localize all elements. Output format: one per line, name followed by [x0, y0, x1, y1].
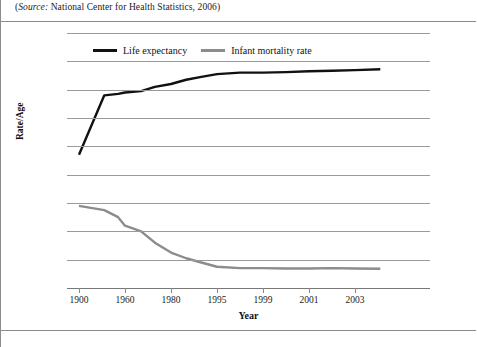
gridline	[67, 203, 430, 204]
gridline	[67, 175, 430, 176]
gridline	[67, 118, 430, 119]
gridline	[67, 260, 430, 261]
source-note: (Source: National Center for Health Stat…	[15, 2, 220, 12]
x-axis-tick-label: 2003	[325, 296, 385, 306]
x-axis: 1900196019801995199920012003 Year	[67, 288, 430, 338]
series-line	[79, 69, 380, 155]
x-axis-tick	[263, 288, 264, 293]
x-axis-title: Year	[67, 310, 430, 321]
legend-swatch	[201, 49, 225, 52]
source-note-label: Source:	[18, 2, 48, 12]
x-axis-tick	[171, 288, 172, 293]
x-axis-tick	[125, 288, 126, 293]
legend-swatch	[93, 49, 117, 52]
gridline	[67, 61, 430, 62]
chart-legend: Life expectancyInfant mortality rate	[93, 45, 312, 56]
divider-top	[1, 21, 477, 22]
source-note-text: National Center for Health Statistics, 2…	[48, 2, 220, 12]
legend-label: Infant mortality rate	[231, 45, 312, 56]
figure-container: (Source: National Center for Health Stat…	[0, 0, 477, 347]
x-axis-tick	[79, 288, 80, 293]
legend-label: Life expectancy	[123, 45, 187, 56]
x-axis-tick	[217, 288, 218, 293]
gridline	[67, 146, 430, 147]
gridline	[67, 33, 430, 34]
x-axis-tick	[355, 288, 356, 293]
chart-series-layer	[67, 33, 430, 288]
plot-area: 0102030405060708090	[67, 33, 430, 288]
y-axis-title: Rate/Age	[15, 103, 25, 140]
x-axis-tick	[309, 288, 310, 293]
legend-item: Infant mortality rate	[201, 45, 312, 56]
gridline	[67, 90, 430, 91]
legend-item: Life expectancy	[93, 45, 187, 56]
gridline	[67, 231, 430, 232]
